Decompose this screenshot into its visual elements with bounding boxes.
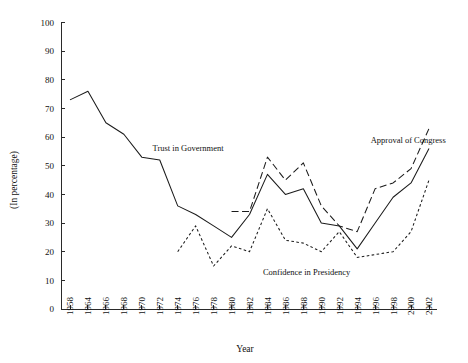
x-tick-label: 1998	[389, 297, 399, 316]
x-tick-label: 1974	[173, 297, 183, 316]
y-tick-label: 70	[45, 104, 55, 114]
x-tick-label: 1964	[83, 297, 93, 316]
x-tick-label: 1978	[209, 297, 219, 316]
x-axis-title: Year	[236, 344, 254, 354]
series-line-trust-in-government	[70, 91, 429, 249]
y-tick-label: 0	[50, 304, 55, 314]
x-tick-label: 2002	[424, 297, 434, 315]
y-axis: 0102030405060708090100	[41, 18, 66, 315]
y-tick-label: 60	[45, 132, 55, 142]
x-tick-label: 1982	[245, 297, 255, 315]
x-tick-label: 1996	[371, 297, 381, 316]
x-tick-label: 1994	[353, 297, 363, 316]
y-tick-label: 10	[45, 276, 55, 286]
y-tick-label: 100	[41, 18, 55, 28]
series-label-confidence-in-presidency: Confidence in Presidency	[263, 267, 351, 277]
series-line-confidence-in-presidency	[178, 180, 429, 266]
x-tick-label: 1990	[317, 297, 327, 316]
series-label-trust-in-government: Trust in Government	[153, 143, 225, 153]
series-labels: Trust in GovernmentConfidence in Preside…	[153, 135, 446, 277]
x-tick-label: 1970	[137, 297, 147, 316]
y-tick-label: 90	[45, 46, 55, 56]
y-tick-label: 20	[45, 247, 55, 257]
y-tick-label: 80	[45, 75, 55, 85]
x-tick-label: 1968	[119, 297, 129, 316]
y-tick-label: 50	[45, 161, 55, 171]
x-axis: 1958196419661968197019721974197619781980…	[61, 297, 437, 316]
x-tick-label: 1992	[335, 297, 345, 315]
x-tick-label: 1958	[65, 297, 75, 316]
x-tick-label: 1976	[191, 297, 201, 316]
series-lines	[70, 91, 429, 266]
y-axis-title: (In percentage)	[9, 151, 20, 209]
y-tick-label: 40	[45, 190, 55, 200]
x-tick-label: 1988	[299, 297, 309, 316]
series-label-approval-of-congress: Approval of Congress	[371, 135, 446, 145]
x-tick-label: 1980	[227, 297, 237, 316]
x-tick-label: 1986	[281, 297, 291, 316]
x-tick-label: 1966	[101, 297, 111, 316]
chart-container: 0102030405060708090100 19581964196619681…	[0, 0, 468, 363]
x-tick-label: 1972	[155, 297, 165, 315]
y-tick-label: 30	[45, 218, 55, 228]
x-tick-label: 1984	[263, 297, 273, 316]
line-chart: 0102030405060708090100 19581964196619681…	[0, 0, 468, 363]
x-tick-label: 2000	[406, 297, 416, 316]
